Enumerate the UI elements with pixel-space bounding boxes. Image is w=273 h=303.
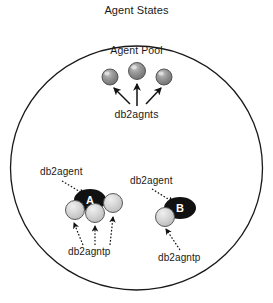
db2agent-right-pointer (152, 189, 173, 202)
db2agnts-arrows (114, 84, 161, 106)
db2agntp-left-label: db2agntp (68, 246, 111, 257)
db2agntp-right-label: db2agntp (158, 252, 201, 263)
db2agent-left-label: db2agent (40, 166, 83, 177)
db2agntp-left-pointer-1 (74, 223, 83, 245)
pool-agent-1[interactable] (102, 69, 118, 85)
diagram-canvas: Agent States Agent Pool db2agnts db2agen… (0, 0, 273, 303)
db2agntp-right-pointer (166, 229, 180, 250)
db2agent-right-label: db2agent (130, 175, 173, 186)
db2agnts-arrow-left (114, 88, 130, 104)
subagent-a-2[interactable] (86, 204, 105, 223)
group-b (152, 189, 196, 250)
agent-pool-label: Agent Pool (0, 44, 273, 56)
group-a (62, 181, 123, 245)
db2agnts-label: db2agnts (0, 108, 273, 120)
diagram-title: Agent States (0, 4, 273, 16)
pool-agent-1-highlight (104, 72, 109, 76)
pool-agent-2[interactable] (129, 63, 146, 80)
pool-agent-2-highlight (131, 65, 136, 69)
db2agntp-left-pointer-3 (110, 217, 113, 245)
subagent-a-1[interactable] (66, 201, 85, 220)
subagent-b-1[interactable] (156, 208, 175, 227)
agent-pool-group (102, 63, 172, 86)
pool-agent-3[interactable] (156, 69, 172, 85)
db2agent-left-pointer (62, 181, 84, 194)
subagent-a-3[interactable] (104, 194, 123, 213)
pool-agent-3-highlight (158, 72, 163, 76)
db2agnts-arrow-right (146, 88, 161, 104)
